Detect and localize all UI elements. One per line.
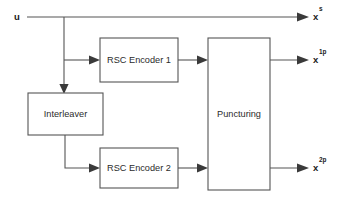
turbo-encoder-diagram: RSC Encoder 1 Interleaver RSC Encoder 2 …: [0, 0, 347, 204]
signal-parity1-superscript: 1p: [319, 48, 327, 56]
block-rsc-encoder-1-label: RSC Encoder 1: [107, 55, 171, 65]
signal-systematic-base: x: [313, 11, 319, 22]
block-puncturing: Puncturing: [208, 38, 270, 190]
block-puncturing-label: Puncturing: [217, 109, 261, 119]
arrowhead-parity1-output: [297, 55, 309, 64]
block-interleaver-label: Interleaver: [44, 109, 87, 119]
signal-label-parity2-output: x 2p: [313, 156, 327, 173]
arrowhead-parity2-output: [297, 163, 309, 172]
block-rsc-encoder-1: RSC Encoder 1: [100, 38, 178, 82]
signal-label-systematic-output: x s: [313, 5, 323, 22]
arrowhead-puncturing-input-top: [197, 56, 208, 65]
arrowhead-puncturing-input-bottom: [197, 164, 208, 173]
signal-parity2-base: x: [313, 162, 319, 173]
block-rsc-encoder-2-label: RSC Encoder 2: [107, 163, 171, 173]
signal-label-input: u: [14, 11, 20, 22]
signal-input-base: u: [14, 11, 20, 22]
diagram-canvas: RSC Encoder 1 Interleaver RSC Encoder 2 …: [0, 0, 347, 204]
signal-systematic-superscript: s: [319, 5, 323, 12]
block-rsc-encoder-2: RSC Encoder 2: [100, 148, 178, 188]
signal-parity2-superscript: 2p: [319, 156, 327, 164]
arrowhead-systematic-output: [297, 12, 309, 21]
signal-label-parity1-output: x 1p: [313, 48, 327, 65]
block-interleaver: Interleaver: [28, 93, 103, 135]
arrowhead-rsc-encoder-1-input: [89, 56, 100, 65]
arrowhead-rsc-encoder-2-input: [89, 164, 100, 173]
wire-interleaver-to-rsc-encoder-2: [65, 135, 95, 168]
signal-parity1-base: x: [313, 54, 319, 65]
